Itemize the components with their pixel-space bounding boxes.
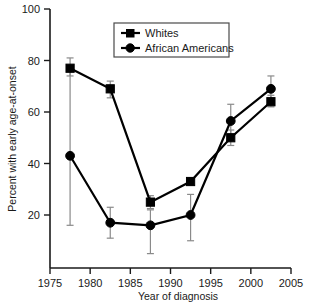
chart-container: 20406080100 1975198019851990199520002005… — [0, 0, 310, 308]
error-bars-whites — [67, 58, 275, 209]
x-axis-ticks: 1975198019851990199520002005 — [38, 268, 303, 289]
data-point-square[interactable] — [227, 134, 235, 142]
line-chart: 20406080100 1975198019851990199520002005… — [0, 0, 310, 308]
data-point-square[interactable] — [106, 85, 114, 93]
y-tick-label: 60 — [28, 106, 40, 118]
legend-label-whites: Whites — [145, 27, 179, 39]
series-line-whites — [70, 68, 271, 202]
data-point-square[interactable] — [186, 177, 194, 185]
x-tick-label: 2005 — [279, 277, 303, 289]
x-tick-label: 1990 — [158, 277, 182, 289]
data-point-circle[interactable] — [106, 218, 115, 227]
data-point-circle[interactable] — [186, 211, 195, 220]
data-point-square[interactable] — [66, 64, 74, 72]
x-tick-label: 1995 — [198, 277, 222, 289]
legend-label-african-americans: African Americans — [145, 42, 234, 54]
chart-legend: Whites African Americans — [114, 23, 234, 57]
error-bars-african-americans — [67, 68, 275, 253]
plot-area — [66, 58, 276, 254]
data-point-square[interactable] — [146, 198, 154, 206]
series-line-african-americans — [70, 89, 271, 225]
square-marker-icon — [127, 30, 135, 38]
data-point-square[interactable] — [267, 98, 275, 106]
data-point-circle[interactable] — [226, 117, 235, 126]
y-tick-label: 20 — [28, 209, 40, 221]
x-tick-label: 1985 — [118, 277, 142, 289]
circle-marker-icon — [126, 44, 134, 52]
data-point-circle[interactable] — [66, 151, 75, 160]
y-tick-label: 40 — [28, 158, 40, 170]
data-point-circle[interactable] — [267, 84, 276, 93]
y-tick-label: 100 — [22, 3, 40, 15]
data-point-circle[interactable] — [146, 221, 155, 230]
y-tick-label: 80 — [28, 55, 40, 67]
y-axis-title: Percent with early age-at-onset — [6, 66, 18, 211]
x-axis-title: Year of diagnosis — [138, 290, 218, 302]
y-axis-ticks: 20406080100 — [22, 3, 50, 221]
x-tick-label: 1975 — [38, 277, 62, 289]
series-markers-african-americans — [66, 84, 276, 229]
series-markers-whites — [66, 64, 275, 206]
x-tick-label: 2000 — [239, 277, 263, 289]
x-tick-label: 1980 — [78, 277, 102, 289]
